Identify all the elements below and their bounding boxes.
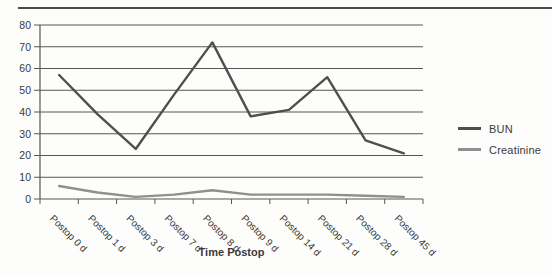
legend-item-creatinine: Creatinine <box>458 139 541 160</box>
creatinine-legend-label: Creatinine <box>489 144 541 156</box>
y-tick-label: 50 <box>19 84 31 96</box>
y-tick-label: 80 <box>19 19 31 31</box>
bun-line-swatch <box>458 127 481 130</box>
creatinine-line-swatch <box>458 148 481 151</box>
y-tick-label: 30 <box>19 128 31 140</box>
y-tick-label: 20 <box>19 149 31 161</box>
y-tick-label: 40 <box>19 106 31 118</box>
y-tick-label: 10 <box>19 171 31 183</box>
bun-legend-label: BUN <box>489 123 513 135</box>
creatinine-series-line <box>59 186 404 197</box>
bun-series-line <box>59 42 404 153</box>
y-tick-label: 70 <box>19 41 31 53</box>
y-tick-label: 60 <box>19 62 31 74</box>
x-axis-title: Time Postop <box>40 246 423 258</box>
y-tick-label: 0 <box>25 193 31 205</box>
legend-item-bun: BUN <box>458 118 541 139</box>
legend: BUN Creatinine <box>458 118 541 160</box>
